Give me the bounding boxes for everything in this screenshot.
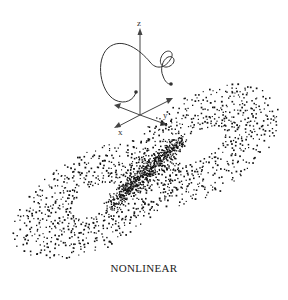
x-axis <box>117 115 140 127</box>
x-label: x <box>118 127 123 137</box>
z-label: z <box>137 18 141 28</box>
attractor-illustration: z y x <box>0 0 288 300</box>
figure-caption: NONLINEAR <box>0 262 288 274</box>
attractor-dots <box>13 83 279 259</box>
